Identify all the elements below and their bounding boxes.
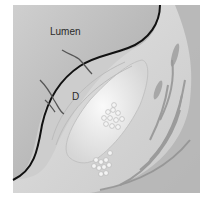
- artery-illustration: Lumen D: [0, 0, 213, 201]
- artery-cross-section-drawing: [0, 0, 213, 201]
- lumen-label: Lumen: [50, 27, 81, 37]
- d-label: D: [72, 92, 79, 102]
